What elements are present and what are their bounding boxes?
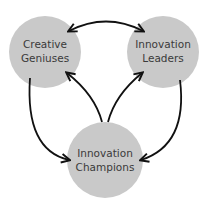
node-label-line2: Leaders — [142, 52, 183, 64]
node-label-line2: Champions — [76, 161, 135, 173]
edge-champions-to-geniuses — [67, 73, 102, 122]
diagram: Creative Geniuses Innovation Leaders Inn… — [0, 0, 210, 209]
diagram-svg: Creative Geniuses Innovation Leaders Inn… — [0, 0, 210, 209]
edge-geniuses-to-champions — [29, 78, 69, 160]
node-circle — [67, 122, 143, 198]
edge-geniuses-leaders — [69, 22, 143, 32]
node-creative-geniuses: Creative Geniuses — [9, 16, 81, 88]
edge-leaders-to-champions — [141, 80, 181, 160]
node-label-line1: Innovation — [77, 147, 133, 159]
edge-champions-to-leaders — [108, 73, 142, 122]
node-label-line1: Innovation — [135, 38, 191, 50]
node-label-line2: Geniuses — [21, 52, 69, 64]
node-innovation-champions: Innovation Champions — [67, 122, 143, 198]
node-label-line1: Creative — [23, 38, 67, 50]
